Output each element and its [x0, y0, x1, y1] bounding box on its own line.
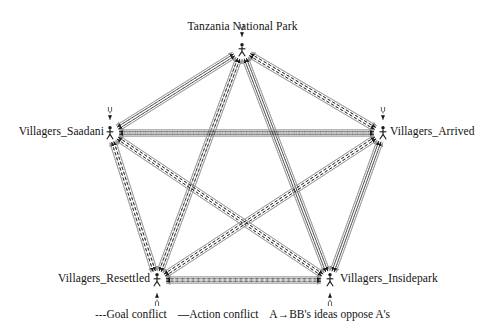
arrow-right-icon: → — [278, 308, 290, 320]
stick-figure-head-icon — [108, 126, 111, 129]
legend-direction: A→BB's ideas oppose A's — [269, 308, 390, 320]
stick-figure-leg-icon — [383, 134, 386, 139]
legend-action-conflict: —Action conflict — [178, 308, 259, 320]
self-loop-saadani — [108, 107, 111, 120]
edge-saadani-insidepark — [116, 135, 324, 277]
action-conflict-line — [248, 57, 373, 131]
edge-saadani-resettled — [110, 141, 157, 273]
action-conflict-line — [110, 143, 152, 273]
edge-layer — [110, 52, 383, 283]
self-loop-arrived — [381, 107, 384, 120]
action-conflict-line — [163, 60, 242, 273]
action-conflict-line — [242, 60, 324, 273]
legend-action-dash-glyph: — — [178, 308, 190, 320]
action-conflict-line — [248, 57, 330, 270]
edge-resettled-insidepark — [166, 277, 321, 283]
stick-figure-leg-icon — [154, 281, 157, 286]
stick-figure-leg-icon — [157, 281, 160, 286]
action-conflict-line — [336, 143, 383, 273]
stick-figure-head-icon — [381, 126, 384, 129]
action-conflict-line — [116, 141, 158, 271]
self-loop-layer — [108, 24, 384, 306]
node-resettled — [154, 273, 161, 286]
legend-direction-to: B — [289, 308, 297, 320]
stick-figure-head-icon — [155, 273, 158, 276]
edge-tnp-resettled — [157, 57, 242, 272]
goal-conflict-line — [250, 54, 375, 128]
self-loop-insidepark — [328, 293, 331, 306]
goal-conflict-line — [161, 59, 240, 272]
action-conflict-line — [163, 135, 374, 272]
stick-figure-head-icon — [328, 273, 331, 276]
legend: ---Goal conflict —Action conflict A→BB's… — [0, 308, 485, 320]
node-label-resettled: Villagers_Resettled — [0, 272, 150, 284]
action-conflict-line — [330, 140, 377, 270]
node-arrived — [380, 126, 387, 139]
edge-arrived-resettled — [163, 135, 377, 277]
legend-direction-from: A — [269, 308, 277, 320]
stick-figure-leg-icon — [242, 51, 245, 56]
node-label-insidepark: Villagers_Insidepark — [340, 272, 438, 284]
diagram-canvas: Tanzania National ParkVillagers_SaadaniV… — [0, 0, 485, 333]
legend-goal-label: Goal conflict — [106, 308, 166, 320]
node-saadani — [107, 126, 114, 139]
legend-action-label: Action conflict — [189, 308, 258, 320]
legend-direction-label: B's ideas oppose A's — [297, 308, 390, 320]
legend-goal-conflict: ---Goal conflict — [95, 308, 167, 320]
edge-saadani-arrived — [119, 130, 374, 136]
node-label-tnp: Tanzania National Park — [0, 20, 485, 32]
goal-conflict-line — [165, 139, 376, 276]
edge-arrived-insidepark — [330, 140, 383, 272]
node-label-saadani: Villagers_Saadani — [0, 125, 104, 137]
stick-figure-leg-icon — [107, 134, 110, 139]
action-conflict-line — [157, 57, 236, 270]
stick-figure-leg-icon — [380, 134, 383, 139]
action-conflict-line — [119, 135, 324, 272]
edge-tnp-insidepark — [242, 57, 329, 272]
node-tnp — [239, 43, 246, 56]
node-label-arrived: Villagers_Arrived — [390, 125, 475, 137]
legend-goal-dash-glyph: --- — [95, 308, 107, 320]
stick-figure-leg-icon — [327, 281, 330, 286]
stick-figure-head-icon — [240, 43, 243, 46]
stick-figure-leg-icon — [110, 134, 113, 139]
action-conflict-line — [119, 57, 236, 130]
stick-figure-leg-icon — [330, 281, 333, 286]
self-loop-resettled — [155, 293, 158, 306]
goal-conflict-line — [249, 56, 374, 130]
stick-figure-leg-icon — [239, 51, 242, 56]
node-insidepark — [327, 273, 334, 286]
